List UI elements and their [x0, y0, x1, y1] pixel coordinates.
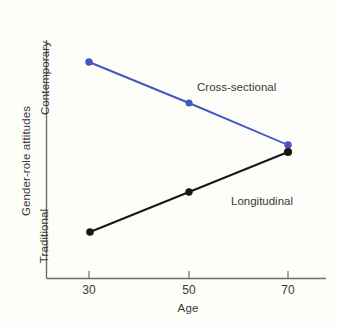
y-axis-label-contemporary: Contemporary [39, 28, 51, 128]
x-axis-title: Age [166, 302, 210, 314]
series-label-longitudinal: Longitudinal [231, 195, 293, 207]
chart-figure: Gender-role attitudes Contemporary Tradi… [0, 0, 339, 326]
data-point-longitudinal-50 [185, 188, 192, 195]
x-axis-tick-label-70: 70 [268, 283, 308, 297]
data-point-cross-sectional-50 [186, 100, 193, 107]
x-axis-tick-label-30: 30 [69, 283, 109, 297]
y-axis-title: Gender-role attitudes [20, 86, 32, 236]
data-point-longitudinal-70 [284, 148, 292, 156]
series-label-cross-sectional: Cross-sectional [197, 81, 276, 93]
data-point-cross-sectional-30 [85, 58, 92, 65]
data-point-longitudinal-30 [86, 228, 94, 236]
y-axis-label-traditional: Traditional [38, 186, 50, 286]
data-point-cross-sectional-70 [284, 141, 291, 148]
x-axis-tick-label-50: 50 [169, 283, 209, 297]
